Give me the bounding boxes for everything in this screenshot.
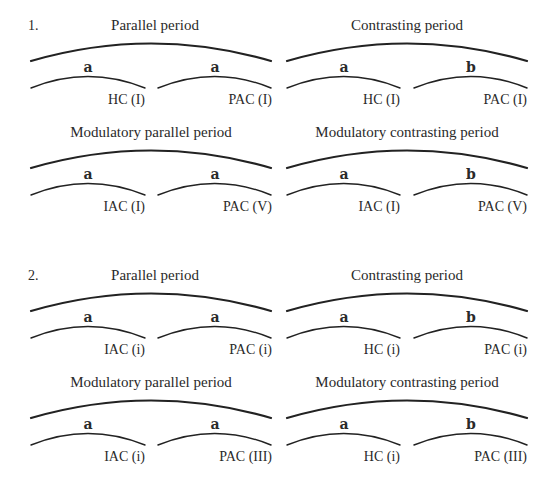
diagram-title: Parallel period [111, 17, 199, 34]
diagram-title: Modulatory parallel period [70, 124, 232, 141]
cadence-label: PAC (III) [219, 449, 272, 465]
phrase-label: a [83, 166, 92, 182]
cadence-label: IAC (i) [104, 449, 145, 465]
cadence-label: PAC (III) [474, 449, 527, 465]
ex2-parallel-arcs [31, 294, 271, 339]
phrase-label: b [466, 309, 476, 325]
phrase-label: a [83, 309, 92, 325]
cadence-label: IAC (I) [103, 199, 145, 215]
ex1-parallel-arcs [31, 44, 271, 89]
phrase-label: a [210, 59, 219, 75]
ex1-mod-parallel-arcs [31, 151, 271, 196]
cadence-label: PAC (V) [478, 199, 527, 215]
phrase-label: a [339, 416, 348, 432]
ex1-mod-contrasting-arcs [287, 151, 527, 196]
cadence-label: HC (i) [364, 342, 400, 358]
diagram-title: Parallel period [111, 267, 199, 284]
ex2-mod-contrasting-arcs [287, 401, 527, 446]
cadence-label: IAC (i) [104, 342, 145, 358]
phrase-label: b [466, 59, 476, 75]
diagram-title: Modulatory contrasting period [315, 124, 498, 141]
phrase-label: a [210, 309, 219, 325]
diagram-title: Contrasting period [351, 267, 463, 284]
example-number: 2. [28, 268, 39, 284]
phrase-label: b [466, 416, 476, 432]
cadence-label: HC (I) [363, 92, 400, 108]
phrase-label: a [339, 309, 348, 325]
ex2-mod-parallel-arcs [31, 401, 271, 446]
ex2-contrasting-arcs [287, 294, 527, 339]
phrase-label: a [83, 416, 92, 432]
phrase-label: b [466, 166, 476, 182]
phrase-label: a [83, 59, 92, 75]
cadence-label: PAC (i) [229, 342, 272, 358]
phrase-label: a [339, 59, 348, 75]
phrase-label: a [339, 166, 348, 182]
phrase-label: a [210, 416, 219, 432]
cadence-label: IAC (I) [358, 199, 400, 215]
cadence-label: PAC (I) [484, 92, 527, 108]
phrase-label: a [210, 166, 219, 182]
cadence-label: PAC (V) [223, 199, 272, 215]
diagram-title: Modulatory parallel period [70, 374, 232, 391]
cadence-label: PAC (i) [484, 342, 527, 358]
ex1-contrasting-arcs [287, 44, 527, 89]
diagram-title: Contrasting period [351, 17, 463, 34]
diagram-title: Modulatory contrasting period [315, 374, 498, 391]
example-number: 1. [28, 18, 39, 34]
cadence-label: HC (i) [364, 449, 400, 465]
cadence-label: HC (I) [108, 92, 145, 108]
cadence-label: PAC (I) [229, 92, 272, 108]
